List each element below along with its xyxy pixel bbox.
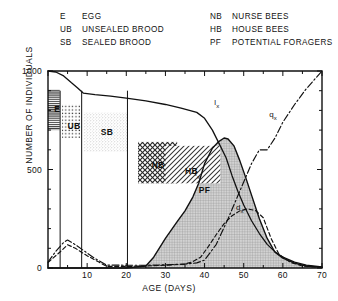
curve-label-lx: lx <box>214 98 219 109</box>
y-tick-label: 1000 <box>12 66 42 76</box>
x-tick-label: 40 <box>193 270 217 280</box>
region-label-NB: NB <box>152 160 165 170</box>
x-tick-label: 20 <box>114 270 138 280</box>
region-label-SB: SB <box>101 127 113 137</box>
y-tick-label: 500 <box>12 165 42 175</box>
region-HB <box>165 146 220 183</box>
x-tick-label: 50 <box>232 270 256 280</box>
y-tick-label: 0 <box>12 263 42 273</box>
region-label-HB: HB <box>185 166 198 176</box>
region-label-E: E <box>54 104 60 114</box>
region-label-PF: PF <box>199 185 210 195</box>
region-label-UB: UB <box>68 121 81 131</box>
curve-label-subscript: x <box>274 115 277 121</box>
x-tick-label: 30 <box>153 270 177 280</box>
x-tick-label: 70 <box>310 270 334 280</box>
x-tick-label: 10 <box>75 270 99 280</box>
curve-label-dx: dx <box>236 203 244 214</box>
curve-label-qx: qx <box>269 110 277 121</box>
plot-area <box>0 0 338 301</box>
curve-label-subscript: x <box>241 207 244 213</box>
figure-bee-demography: E EGG NB NURSE BEES UB UNSEALED BROOD HB… <box>0 0 338 301</box>
curve-label-subscript: x <box>216 103 219 109</box>
x-tick-label: 60 <box>271 270 295 280</box>
